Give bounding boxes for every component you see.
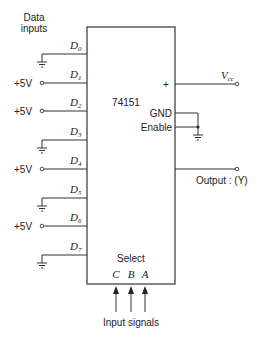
chip-select-label: Select: [117, 253, 145, 264]
chip-74151-body: [87, 27, 175, 284]
multiplexer-circuit-diagram: Data inputs 74151 + GND Enable Select C …: [0, 0, 260, 341]
data-input-d6: D6 +5V: [14, 211, 87, 232]
svg-text:D3: D3: [69, 125, 82, 139]
plus-5v-label: +5V: [14, 164, 32, 175]
svg-text:D0: D0: [69, 39, 82, 53]
terminal-icon: [235, 167, 239, 171]
terminal-icon: [235, 82, 239, 86]
input-signals-label: Input signals: [103, 317, 159, 328]
arrow-up-icon: [113, 286, 119, 294]
chip-plus-label: +: [163, 79, 169, 90]
terminal-icon: [40, 81, 44, 85]
svg-text:D4: D4: [69, 154, 82, 168]
svg-text:Vcc: Vcc: [221, 69, 235, 83]
svg-text:D5: D5: [69, 183, 82, 197]
terminal-icon: [40, 109, 44, 113]
data-inputs-title-line2: inputs: [21, 23, 48, 34]
plus-5v-label: +5V: [14, 221, 32, 232]
ground-icon: [37, 54, 47, 67]
output-label: Output : (Y): [196, 175, 248, 186]
plus-5v-label: +5V: [14, 106, 32, 117]
plus-5v-label: +5V: [14, 78, 32, 89]
data-input-d2: D2 +5V: [14, 96, 87, 117]
data-input-d3: D3: [37, 125, 87, 153]
data-input-d1: D1 +5V: [14, 68, 87, 89]
data-input-d0: D0: [37, 39, 87, 67]
data-input-d5: D5: [37, 183, 87, 211]
data-inputs-title-line1: Data: [23, 12, 45, 23]
chip-enable-label: Enable: [141, 122, 173, 133]
svg-text:D6: D6: [69, 211, 82, 225]
svg-text:D1: D1: [69, 68, 81, 82]
terminal-icon: [40, 224, 44, 228]
select-input-arrows: [113, 286, 148, 312]
ground-icon: [37, 198, 47, 211]
select-pin-a: A: [141, 268, 149, 280]
vcc-connection: Vcc: [175, 69, 239, 86]
ground-icon: [193, 127, 203, 140]
ground-icon: [37, 255, 47, 268]
arrow-up-icon: [128, 286, 134, 294]
ground-icon: [37, 140, 47, 153]
svg-text:D2: D2: [69, 96, 82, 110]
terminal-icon: [40, 167, 44, 171]
gnd-enable-connection: [175, 113, 203, 140]
svg-text:D7: D7: [69, 240, 82, 254]
arrow-up-icon: [142, 286, 148, 294]
select-pin-c: C: [112, 268, 120, 280]
output-connection: Output : (Y): [175, 167, 248, 186]
data-input-d7: D7: [37, 240, 87, 268]
chip-part-number: 74151: [112, 97, 140, 108]
data-input-d4: D4 +5V: [14, 154, 87, 175]
select-pin-b: B: [128, 268, 135, 280]
chip-gnd-label: GND: [150, 108, 172, 119]
